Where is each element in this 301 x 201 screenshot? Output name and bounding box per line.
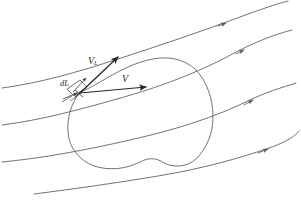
flow-diagram-canvas xyxy=(0,0,301,201)
blob-outline xyxy=(68,58,213,169)
v-parallel-label: VL xyxy=(88,56,98,67)
streamline-4 xyxy=(34,131,299,194)
flow-diagram-figure: VL V dL xyxy=(0,0,301,201)
v-total-label: V xyxy=(122,74,128,84)
streamline-1 xyxy=(2,1,288,88)
dl-lower-arrow xyxy=(63,93,77,99)
streamline-3 xyxy=(2,83,296,162)
closed-blob-contour xyxy=(68,58,213,169)
streamline-2 xyxy=(2,30,292,125)
v-parallel-subscript: L xyxy=(94,59,97,66)
line-element-label: dL xyxy=(60,79,69,88)
streamlines-group xyxy=(2,1,299,194)
